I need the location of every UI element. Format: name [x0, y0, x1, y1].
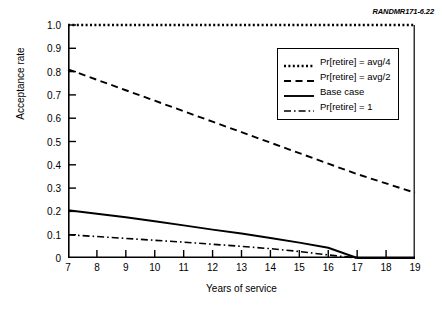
y-tick-label: 0.3	[47, 183, 61, 194]
legend-item: Pr[retire] = avg/2	[284, 69, 391, 84]
y-axis-ticks	[69, 25, 76, 235]
legend-item-label: Base case	[320, 87, 364, 97]
y-tick-label: 0.6	[47, 113, 61, 124]
x-tick-label: 15	[294, 262, 305, 273]
legend-item: Pr[retire] = 1	[284, 99, 391, 114]
chart-legend: Pr[retire] = avg/4Pr[retire] = avg/2Base…	[277, 48, 399, 120]
x-tick-label: 19	[409, 262, 420, 273]
x-tick-label: 18	[381, 262, 392, 273]
y-tick-label: 0.8	[47, 66, 61, 77]
x-tick-label: 14	[265, 262, 276, 273]
x-tick-label: 10	[149, 262, 160, 273]
legend-line-swatch	[284, 72, 314, 82]
x-tick-label: 11	[178, 262, 188, 273]
y-tick-label: 0.5	[47, 136, 61, 147]
legend-line-swatch	[284, 57, 314, 67]
y-tick-label: 0.9	[47, 43, 61, 54]
x-tick-label: 13	[236, 262, 247, 273]
source-identifier: RANDMR171-6.22	[372, 7, 434, 16]
y-axis-title: Acceptance rate	[15, 24, 26, 144]
y-tick-label: 1.0	[47, 20, 61, 31]
y-tick-label: 0.4	[47, 159, 61, 170]
legend-line-swatch	[284, 102, 314, 112]
y-tick-label: 0.1	[47, 229, 61, 240]
x-tick-label: 7	[65, 262, 71, 273]
legend-item: Pr[retire] = avg/4	[284, 54, 391, 69]
x-tick-label: 12	[207, 262, 218, 273]
legend-line-swatch	[284, 87, 314, 97]
x-tick-label: 17	[352, 262, 363, 273]
legend-item-label: Pr[retire] = 1	[320, 102, 373, 112]
y-tick-label: 0.7	[47, 89, 61, 100]
y-tick-label: 0	[55, 253, 61, 264]
figure-container: RANDMR171-6.22 Acceptance rate Years of …	[0, 0, 442, 310]
y-tick-label: 0.2	[47, 206, 61, 217]
x-tick-label: 9	[123, 262, 129, 273]
legend-item: Base case	[284, 84, 391, 99]
legend-item-label: Pr[retire] = avg/2	[320, 72, 391, 82]
x-tick-label: 8	[94, 262, 100, 273]
legend-item-label: Pr[retire] = avg/4	[320, 57, 391, 67]
x-axis-title: Years of service	[68, 283, 415, 294]
x-tick-label: 16	[323, 262, 334, 273]
